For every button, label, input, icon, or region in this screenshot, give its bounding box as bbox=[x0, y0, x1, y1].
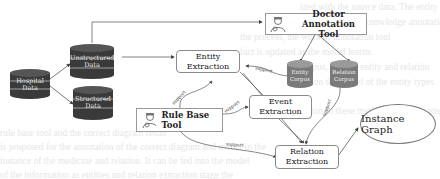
doctor-annotation-tool-box: Doctor Annotation Tool bbox=[265, 13, 367, 35]
doctor-icon bbox=[269, 15, 287, 33]
rule-base-tool-label: Rule Base Tool bbox=[161, 110, 222, 130]
instance-graph-node: Instance Graph bbox=[360, 104, 436, 144]
doctor-annotation-tool-label: Doctor Annotation Tool bbox=[291, 9, 366, 39]
unstructured-data-label: Unstructured Data bbox=[70, 55, 114, 69]
relation-corpus-label: Relation Corpus bbox=[330, 69, 358, 83]
structured-data-label: Structured Data bbox=[73, 96, 113, 110]
cylinder-hospital-data: Hospital Data bbox=[10, 69, 50, 99]
cylinder-entity-corpus: Entity Corpus bbox=[287, 60, 313, 88]
relation-extraction-box: Relation Extraction bbox=[275, 145, 339, 169]
hospital-data-label: Hospital Data bbox=[10, 78, 50, 92]
entity-corpus-label: Entity Corpus bbox=[287, 69, 313, 83]
connector-lines bbox=[0, 0, 440, 179]
rule-base-tool-box: Rule Base Tool bbox=[136, 108, 223, 132]
cylinder-relation-corpus: Relation Corpus bbox=[330, 60, 358, 88]
cylinder-structured-data: Structured Data bbox=[73, 86, 113, 120]
event-extraction-box: Event Extraction bbox=[249, 95, 312, 119]
entity-extraction-box: Entity Extraction bbox=[176, 50, 240, 73]
cylinder-unstructured-data: Unstructured Data bbox=[70, 44, 114, 79]
doctor-icon bbox=[141, 111, 156, 129]
